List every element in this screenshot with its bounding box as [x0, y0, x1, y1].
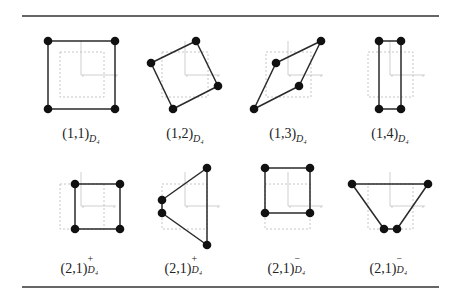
label-main: (2,1)	[370, 261, 397, 276]
polygon-outline	[75, 184, 120, 229]
panel-label-1-2: (1,2)D₄	[166, 126, 204, 142]
vertex-dot	[375, 37, 384, 46]
dashed-reference-square	[60, 52, 104, 97]
label-sup: +	[87, 253, 93, 264]
dashed-reference-square	[162, 184, 207, 229]
panel-label-1-3: (1,3)D₄	[269, 126, 307, 142]
vertex-dot	[158, 209, 167, 218]
panel-label-1-1: (1,1)D₄	[62, 126, 100, 142]
vertex-dot	[393, 225, 402, 234]
panel-1-4	[368, 37, 425, 114]
label-main: (1,1)	[62, 126, 89, 141]
vertex-dot	[44, 105, 53, 114]
vertex-dot	[147, 59, 156, 68]
vertex-dot	[424, 180, 433, 189]
vertex-dot	[203, 164, 212, 173]
label-sub-sup: +D₄	[191, 259, 205, 273]
panel-2-1-plus-b	[158, 164, 220, 250]
vertex-dot	[306, 209, 315, 218]
vertex-dot	[348, 180, 357, 189]
label-sup: −	[294, 253, 300, 264]
vertex-dot	[116, 225, 125, 234]
label-sup: +	[191, 253, 197, 264]
panel-1-3	[250, 37, 326, 114]
vertex-dot	[295, 82, 304, 91]
panel-label-2-1-minus-b: (2,1)−D₄	[370, 259, 411, 277]
label-sub: D₄	[396, 264, 407, 275]
dashed-reference-square	[60, 184, 104, 229]
panel-1-1	[44, 37, 120, 114]
label-main: (2,1)	[268, 261, 295, 276]
dashed-reference-square	[368, 184, 413, 229]
label-main: (1,2)	[166, 126, 193, 141]
vertex-dot	[397, 105, 406, 114]
vertex-dot	[214, 82, 223, 91]
panel-1-2	[147, 37, 223, 114]
vertex-dot	[306, 164, 315, 173]
vertex-dot	[203, 241, 212, 250]
vertex-dot	[375, 105, 384, 114]
panel-2-1-minus-a	[261, 164, 323, 229]
dashed-reference-square	[265, 184, 310, 229]
panel-label-2-1-plus-a: (2,1)+D₄	[61, 259, 102, 277]
label-sub: D₄	[87, 264, 98, 275]
panel-label-1-4: (1,4)D₄	[371, 126, 409, 142]
vertex-dot	[397, 37, 406, 46]
label-main: (1,3)	[269, 126, 296, 141]
vertex-dot	[71, 180, 80, 189]
vertex-dot	[317, 37, 326, 46]
label-main: (2,1)	[61, 261, 88, 276]
label-sub: D₄	[296, 133, 307, 144]
vertex-dot	[192, 37, 201, 46]
vertex-dot	[44, 37, 53, 46]
vertex-dot	[111, 105, 120, 114]
label-sup: −	[396, 253, 402, 264]
polygon-outline	[162, 168, 207, 245]
label-sub: D₄	[294, 264, 305, 275]
label-sub-sup: +D₄	[87, 259, 101, 273]
label-sub: D₄	[89, 133, 100, 144]
vertex-dot	[169, 105, 178, 114]
label-sub: D₄	[398, 133, 409, 144]
vertex-dot	[250, 105, 259, 114]
panel-2-1-plus-a	[60, 172, 124, 233]
vertex-dot	[380, 225, 389, 234]
label-sub: D₄	[191, 264, 202, 275]
panel-2-1-minus-b	[348, 172, 433, 233]
vertex-dot	[261, 164, 270, 173]
vertex-dot	[261, 209, 270, 218]
label-sub-sup: −D₄	[294, 259, 308, 273]
label-main: (1,4)	[371, 126, 398, 141]
vertex-dot	[272, 59, 281, 68]
dashed-reference-square	[368, 52, 413, 97]
label-main: (2,1)	[165, 261, 192, 276]
panel-label-2-1-minus-a: (2,1)−D₄	[268, 259, 309, 277]
vertex-dot	[71, 225, 80, 234]
panel-label-2-1-plus-b: (2,1)+D₄	[165, 259, 206, 277]
label-sub: D₄	[193, 133, 204, 144]
label-sub-sup: −D₄	[396, 259, 410, 273]
vertex-dot	[158, 196, 167, 205]
vertex-dot	[116, 180, 125, 189]
vertex-dot	[111, 37, 120, 46]
